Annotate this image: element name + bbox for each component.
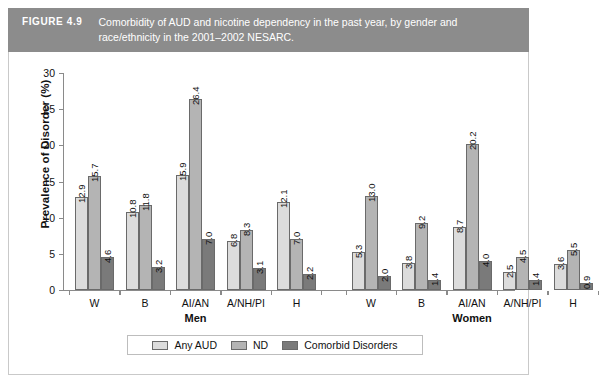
bar [88,176,101,290]
legend-entry: ND [231,339,268,351]
y-tick-label: 20 [29,140,55,150]
bar-value-label: 3.8 [404,255,413,268]
bar [139,205,152,290]
bar-value-label: 12.1 [279,190,288,209]
x-tick-mark [548,291,549,295]
x-tick-mark [120,291,121,295]
bar-value-label: 10.8 [128,199,137,218]
bar [466,144,479,290]
x-tick-mark [346,291,347,295]
y-tick-label: 5 [29,249,55,259]
legend-label: ND [253,339,268,351]
figure-header-band: FIGURE 4.9 Comorbidity of AUD and nicoti… [8,8,529,52]
bar-value-label: 20.2 [468,131,477,150]
bar [227,241,240,290]
bar [290,239,303,290]
bar-value-label: 0.9 [582,276,591,289]
figure-caption: Comorbidity of AUD and nicotine dependen… [98,15,518,45]
y-tick-label: 25 [29,104,55,114]
x-group-label: H [267,298,327,309]
bar [75,197,88,290]
x-tick-mark [497,291,498,295]
legend-swatch [282,341,298,350]
x-tick-mark [598,291,599,295]
grouped-bar-chart: Prevalence of Disorder (%) 051015202530 … [9,52,530,375]
panel-label: Women [432,313,512,324]
x-tick-mark [447,291,448,295]
bar-value-label: 3.2 [154,260,163,273]
y-axis-line [63,73,64,291]
bar [176,175,189,290]
chart-legend: Any AUDNDComorbid Disorders [127,335,423,355]
bar-value-label: 2.0 [380,268,389,281]
bar [365,196,378,290]
bar-value-label: 8.3 [242,223,251,236]
y-tick-label: 0 [29,285,55,295]
bar-value-label: 2.5 [505,265,514,278]
legend-label: Comorbid Disorders [304,339,397,351]
bar-value-label: 4.5 [518,250,527,263]
bar-value-label: 1.4 [531,273,540,286]
x-tick-mark [170,291,171,295]
bar-value-label: 4.6 [103,250,112,263]
bar-value-label: 15.7 [90,164,99,183]
x-group-label: H [543,298,603,309]
bar [567,250,580,290]
legend-swatch [231,341,247,350]
bar [277,202,290,290]
bar [453,227,466,290]
bar-value-label: 3.1 [255,260,264,273]
bar-value-label: 11.8 [141,193,150,211]
bar-value-label: 7.0 [204,232,213,245]
x-tick-mark [321,291,322,295]
bar-value-label: 15.9 [178,162,187,181]
legend-label: Any AUD [174,339,217,351]
bar-value-label: 5.3 [354,244,363,257]
panel-label: Men [156,313,236,324]
x-tick-mark [221,291,222,295]
bar-value-label: 3.6 [556,257,565,270]
bar [126,212,139,290]
bar-value-label: 1.4 [430,273,439,286]
bar [189,99,202,290]
bar-value-label: 7.0 [292,232,301,245]
bar [202,239,215,290]
x-tick-mark [271,291,272,295]
bar-value-label: 12.9 [77,184,86,203]
bar-value-label: 2.2 [305,267,314,280]
bar-value-label: 8.7 [455,220,464,233]
y-tick-label: 15 [29,177,55,187]
x-tick-mark [396,291,397,295]
y-tick-label: 10 [29,213,55,223]
bar-value-label: 26.4 [191,87,200,106]
bar-value-label: 9.2 [417,216,426,229]
bar-value-label: 5.5 [569,243,578,256]
bar-value-label: 6.8 [229,234,238,247]
y-tick-label: 30 [29,68,55,78]
legend-entry: Comorbid Disorders [282,339,397,351]
x-tick-mark [69,291,70,295]
figure-number-label: FIGURE 4.9 [22,15,82,27]
figure-body-frame: Prevalence of Disorder (%) 051015202530 … [8,52,529,375]
bar-value-label: 13.0 [367,183,376,202]
bar-value-label: 4.0 [481,254,490,267]
bar [415,223,428,290]
legend-entry: Any AUD [152,339,217,351]
legend-swatch [152,341,168,350]
bar [240,230,253,290]
